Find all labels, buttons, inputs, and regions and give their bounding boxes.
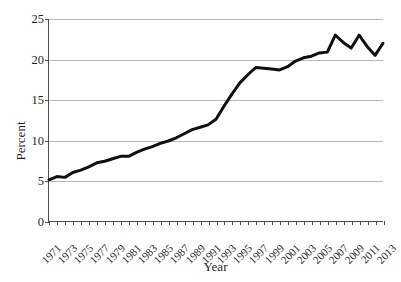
x-tick-1972 bbox=[57, 221, 58, 225]
x-tick-1992 bbox=[217, 221, 218, 225]
y-tick-label-0: 0 bbox=[38, 216, 44, 229]
x-tick-1996 bbox=[248, 221, 249, 225]
y-tick-label-10: 10 bbox=[32, 134, 45, 147]
x-tick-1983 bbox=[145, 221, 146, 225]
x-tick-1984 bbox=[153, 221, 154, 225]
x-tick-1973 bbox=[65, 221, 66, 225]
x-tick-1989 bbox=[193, 221, 194, 225]
x-tick-2000 bbox=[280, 221, 281, 225]
plot-area: 0510152025 19711973197519771979198119831… bbox=[48, 19, 383, 222]
x-tick-1987 bbox=[177, 221, 178, 225]
x-axis-title: Year bbox=[48, 259, 383, 275]
x-tick-1985 bbox=[161, 221, 162, 225]
data-series-line bbox=[49, 19, 383, 221]
y-tick-label-15: 15 bbox=[32, 94, 45, 107]
x-tick-1979 bbox=[113, 221, 114, 225]
x-tick-1982 bbox=[137, 221, 138, 225]
x-tick-1997 bbox=[256, 221, 257, 225]
x-tick-2004 bbox=[312, 221, 313, 225]
x-tick-1975 bbox=[81, 221, 82, 225]
x-tick-1995 bbox=[240, 221, 241, 225]
x-tick-2001 bbox=[288, 221, 289, 225]
x-tick-1986 bbox=[169, 221, 170, 225]
y-axis-title: Percent bbox=[13, 122, 29, 161]
x-tick-1990 bbox=[201, 221, 202, 225]
x-tick-2010 bbox=[360, 221, 361, 225]
x-tick-2009 bbox=[352, 221, 353, 225]
x-tick-2006 bbox=[328, 221, 329, 225]
x-tick-2012 bbox=[376, 221, 377, 225]
x-tick-1976 bbox=[89, 221, 90, 225]
x-tick-1998 bbox=[264, 221, 265, 225]
x-tick-2013 bbox=[384, 221, 385, 225]
x-tick-2003 bbox=[304, 221, 305, 225]
x-tick-1980 bbox=[121, 221, 122, 225]
x-tick-2008 bbox=[344, 221, 345, 225]
x-tick-1991 bbox=[209, 221, 210, 225]
x-tick-1994 bbox=[232, 221, 233, 225]
x-tick-1977 bbox=[97, 221, 98, 225]
x-tick-2007 bbox=[336, 221, 337, 225]
y-tick-label-25: 25 bbox=[32, 13, 45, 26]
y-tick-label-20: 20 bbox=[32, 53, 45, 66]
x-tick-1978 bbox=[105, 221, 106, 225]
x-tick-2011 bbox=[368, 221, 369, 225]
y-tick-label-5: 5 bbox=[38, 175, 44, 188]
x-tick-1988 bbox=[185, 221, 186, 225]
x-tick-1999 bbox=[272, 221, 273, 225]
x-tick-1981 bbox=[129, 221, 130, 225]
x-tick-1971 bbox=[49, 221, 50, 225]
x-tick-1993 bbox=[224, 221, 225, 225]
x-tick-2002 bbox=[296, 221, 297, 225]
x-tick-1974 bbox=[73, 221, 74, 225]
x-tick-2005 bbox=[320, 221, 321, 225]
